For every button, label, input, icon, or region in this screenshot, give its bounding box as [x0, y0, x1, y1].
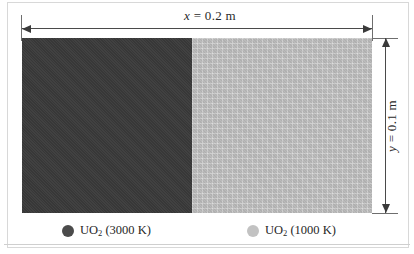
- dimension-y-equals: =: [384, 131, 399, 146]
- arrow-up-icon: [382, 38, 390, 47]
- figure-container: x = 0.2 m y = 0.1 m UO2 (3000 K) UO2 (10…: [0, 0, 414, 254]
- arrow-down-icon: [382, 204, 390, 213]
- tick-bottom: [372, 213, 398, 214]
- dimension-x-equals: =: [190, 8, 205, 23]
- dimension-line-horizontal: [22, 28, 372, 29]
- legend-label-hot: UO2 (3000 K): [80, 224, 151, 237]
- region-cold: [192, 38, 372, 213]
- legend-swatch-hot-icon: [62, 225, 74, 237]
- legend-label-cold: UO2 (1000 K): [265, 224, 336, 237]
- legend-cold-subscript: 2: [283, 228, 287, 238]
- region-hot: [22, 38, 192, 213]
- region-cold-mesh: [192, 38, 372, 213]
- arrow-left-icon: [22, 25, 31, 33]
- legend-swatch-cold-icon: [247, 225, 259, 237]
- legend-hot-temperature: (3000 K): [105, 223, 150, 237]
- region-hot-texture: [22, 38, 192, 213]
- legend: UO2 (3000 K) UO2 (1000 K): [0, 222, 414, 246]
- legend-item-cold: UO2 (1000 K): [247, 224, 336, 237]
- dimension-y-variable: y: [384, 146, 399, 152]
- dimension-x-value: 0.2 m: [205, 8, 236, 23]
- legend-item-hot: UO2 (3000 K): [62, 224, 151, 237]
- arrow-right-icon: [363, 25, 372, 33]
- legend-cold-temperature: (1000 K): [290, 223, 335, 237]
- dimension-y-value: 0.1 m: [384, 100, 399, 131]
- legend-hot-subscript: 2: [98, 228, 102, 238]
- legend-hot-material: UO: [80, 223, 98, 237]
- dimension-label-y: y = 0.1 m: [384, 66, 400, 186]
- region-cold-texture: [192, 38, 372, 213]
- domain-rectangle: [22, 38, 372, 213]
- legend-cold-material: UO: [265, 223, 283, 237]
- dimension-label-x: x = 0.2 m: [150, 8, 270, 24]
